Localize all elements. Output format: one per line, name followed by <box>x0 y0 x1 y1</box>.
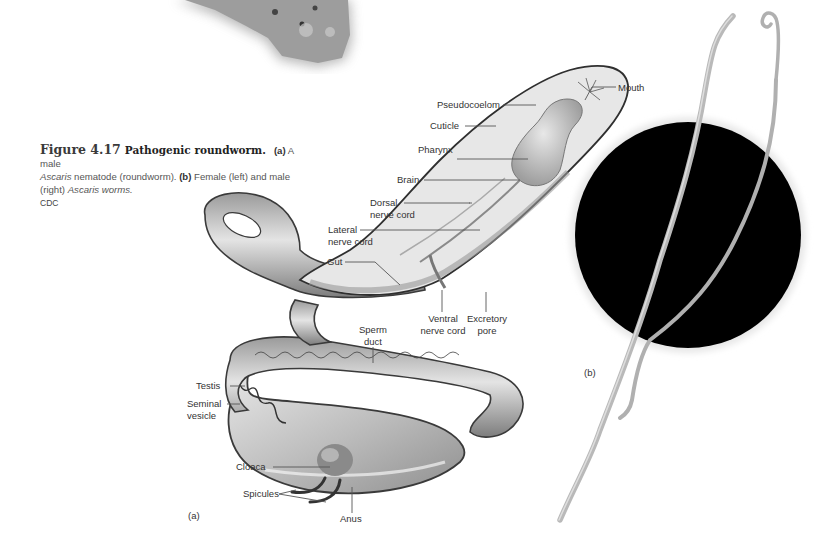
label-lateral-line2: nerve cord <box>328 236 373 247</box>
caption-part-a-text-2: nematode (roundworm). <box>71 171 179 182</box>
label-sperm-duct: Sperm duct <box>355 324 391 347</box>
figure-number: Figure 4.17 <box>40 142 121 157</box>
label-sperm-line2: duct <box>364 336 382 347</box>
label-cuticle: Cuticle <box>430 120 459 132</box>
figure-caption: Figure 4.17Pathogenic roundworm. (a) A m… <box>40 143 300 210</box>
label-lateral-nerve-cord: Lateral nerve cord <box>328 224 373 247</box>
label-mouth: Mouth <box>618 82 644 94</box>
figure-title: Pathogenic roundworm. <box>125 144 266 156</box>
caption-part-b-italic: Ascaris worms. <box>68 184 133 195</box>
caption-credit: CDC <box>40 198 58 208</box>
label-seminal-vesicle: Seminal vesicle <box>187 398 221 421</box>
label-pharynx: Pharynx <box>418 144 453 156</box>
caption-part-a-italic: Ascaris <box>40 171 71 182</box>
label-dorsal-line2: nerve cord <box>370 209 415 220</box>
label-anus: Anus <box>340 513 362 525</box>
micrograph-fragment <box>175 0 352 67</box>
label-excretory-line1: Excretory <box>467 313 507 324</box>
label-lateral-line1: Lateral <box>328 224 357 235</box>
panel-a-marker: (a) <box>188 510 200 522</box>
label-seminal-line1: Seminal <box>187 398 221 409</box>
caption-part-a-marker: (a) <box>274 145 286 156</box>
label-seminal-line2: vesicle <box>187 410 216 421</box>
label-brain: Brain <box>397 174 419 186</box>
label-sperm-line1: Sperm <box>359 324 387 335</box>
figure-artwork <box>0 0 825 550</box>
panel-a-illustration <box>205 66 629 502</box>
panel-b-marker: (b) <box>584 367 596 379</box>
label-cloaca: Cloaca <box>236 461 266 473</box>
label-testis: Testis <box>196 380 220 392</box>
label-excretory-line2: pore <box>477 325 496 336</box>
caption-part-b-marker: (b) <box>179 171 191 182</box>
label-dorsal-line1: Dorsal <box>370 197 397 208</box>
label-excretory-pore: Excretory pore <box>464 313 510 336</box>
label-ventral-line1: Ventral <box>428 313 458 324</box>
label-dorsal-nerve-cord: Dorsal nerve cord <box>370 197 415 220</box>
label-ventral-line2: nerve cord <box>421 325 466 336</box>
label-gut: Gut <box>327 256 342 268</box>
label-pseudocoelom: Pseudocoelom <box>437 99 500 111</box>
label-spicules: Spicules <box>243 488 279 500</box>
label-ventral-nerve-cord: Ventral nerve cord <box>420 313 466 336</box>
